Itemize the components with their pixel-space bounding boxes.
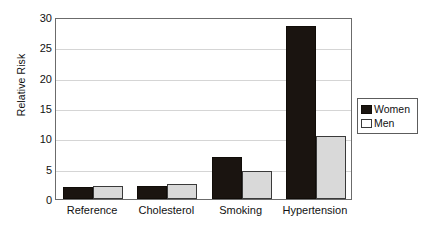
legend-label: Women [374, 104, 410, 114]
y-axis-tick-labels: 051015202530 [22, 0, 52, 236]
chart-legend: WomenMen [357, 98, 418, 134]
bar-women-cholesterol [137, 186, 167, 199]
x-axis-tick-label: Hypertension [278, 204, 352, 216]
y-axis-tick-label: 0 [26, 195, 52, 205]
legend-swatch-women-icon [361, 105, 372, 114]
y-axis-tick-label: 15 [26, 104, 52, 114]
y-axis-tick-label: 25 [26, 43, 52, 53]
y-axis-tick-label: 5 [26, 165, 52, 175]
bar-women-reference [63, 187, 93, 199]
bar-group [56, 19, 130, 199]
bar-men-hypertension [316, 136, 346, 199]
bar-women-smoking [212, 157, 242, 199]
legend-item-women[interactable]: Women [361, 102, 414, 116]
bar-series-container [56, 19, 351, 199]
bar-chart: Relative Risk 051015202530 ReferenceChol… [0, 0, 433, 236]
bar-group [279, 19, 353, 199]
x-axis-tick-label: Reference [55, 204, 129, 216]
y-axis-tick-label: 30 [26, 13, 52, 23]
bar-men-reference [93, 186, 123, 199]
bar-group [205, 19, 279, 199]
x-axis-tick-label: Cholesterol [129, 204, 203, 216]
legend-label: Men [374, 118, 394, 128]
x-axis-tick-label: Smoking [204, 204, 278, 216]
bar-group [130, 19, 204, 199]
y-axis-tick-label: 10 [26, 134, 52, 144]
y-axis-tick-label: 20 [26, 74, 52, 84]
legend-item-men[interactable]: Men [361, 116, 414, 130]
plot-area [55, 18, 352, 200]
bar-women-hypertension [286, 26, 316, 199]
bar-men-smoking [242, 171, 272, 200]
bar-men-cholesterol [167, 184, 197, 199]
legend-swatch-men-icon [361, 119, 372, 128]
